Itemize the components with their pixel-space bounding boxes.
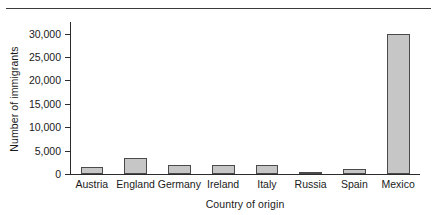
y-axis-tick: 10,000 <box>65 127 70 128</box>
bar-ireland <box>212 165 235 174</box>
y-axis-tick: 25,000 <box>65 57 70 58</box>
bar-italy <box>256 165 279 174</box>
bar-russia <box>299 172 322 174</box>
x-axis-label-england: England <box>114 178 158 190</box>
y-axis-tick-label: 30,000 <box>29 28 61 40</box>
bar-chart-figure: Number of immigrants 05,00010,00015,0002… <box>0 0 437 215</box>
figure-top-rule <box>6 8 431 9</box>
y-axis-tick-label: 25,000 <box>29 51 61 63</box>
bar-mexico <box>387 34 410 174</box>
x-axis-label-austria: Austria <box>70 178 114 190</box>
y-axis-tick: 30,000 <box>65 34 70 35</box>
y-axis-tick: 20,000 <box>65 80 70 81</box>
plot-area: 05,00010,00015,00020,00025,00030,000 Aus… <box>70 22 420 174</box>
x-axis-title: Country of origin <box>70 198 420 210</box>
y-axis-tick-label: 0 <box>55 168 61 180</box>
y-axis-tick-label: 15,000 <box>29 98 61 110</box>
x-axis-label-spain: Spain <box>333 178 377 190</box>
y-axis-tick: 15,000 <box>65 104 70 105</box>
bar-germany <box>168 165 191 174</box>
x-axis-label-ireland: Ireland <box>201 178 245 190</box>
x-axis-label-russia: Russia <box>289 178 333 190</box>
x-axis-label-italy: Italy <box>245 178 289 190</box>
x-axis-line <box>70 174 420 175</box>
bar-austria <box>81 167 104 174</box>
bar-spain <box>343 169 366 174</box>
y-axis-tick-label: 20,000 <box>29 74 61 86</box>
y-axis-tick: 0 <box>65 174 70 175</box>
x-axis-label-germany: Germany <box>158 178 202 190</box>
y-axis-tick-label: 10,000 <box>29 121 61 133</box>
y-axis-line <box>70 22 71 174</box>
x-axis-label-mexico: Mexico <box>376 178 420 190</box>
y-axis-title: Number of immigrants <box>8 19 20 179</box>
bar-england <box>124 158 147 174</box>
y-axis-tick-label: 5,000 <box>35 145 61 157</box>
y-axis-tick: 5,000 <box>65 151 70 152</box>
